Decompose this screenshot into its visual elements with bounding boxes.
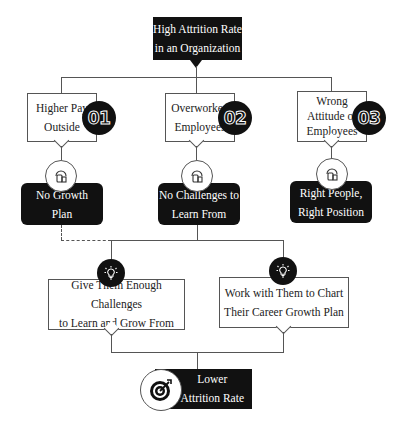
number-badge-02: 02 bbox=[218, 101, 252, 135]
person-device-icon bbox=[52, 167, 70, 185]
connector bbox=[111, 240, 283, 241]
root-node: High Attrition Rate in an Organization bbox=[153, 17, 242, 60]
connector bbox=[196, 66, 197, 77]
connector bbox=[61, 77, 62, 93]
solution-label: Work with Them to Chart Their Career Gro… bbox=[224, 284, 344, 322]
solution-node-1: Give Them Enough Challenges to Learn and… bbox=[48, 279, 185, 330]
effect-icon-circle bbox=[45, 160, 77, 192]
dashed-connector bbox=[61, 240, 111, 241]
connector bbox=[283, 332, 284, 352]
outcome-icon-circle bbox=[140, 369, 182, 411]
cause-label: Higher Pay Outside bbox=[36, 99, 88, 137]
solution-icon-circle bbox=[269, 257, 297, 285]
dashed-connector bbox=[61, 225, 62, 240]
connector bbox=[61, 146, 62, 160]
effect-icon-circle bbox=[316, 158, 348, 190]
lightbulb-icon bbox=[103, 265, 119, 281]
lightbulb-icon bbox=[275, 263, 291, 279]
person-device-icon bbox=[323, 165, 341, 183]
root-label: High Attrition Rate in an Organization bbox=[153, 20, 242, 58]
effect-icon-circle bbox=[181, 160, 213, 192]
connector bbox=[196, 77, 197, 93]
connector bbox=[196, 146, 197, 160]
connector bbox=[111, 334, 112, 352]
number-badge-01: 01 bbox=[82, 101, 116, 135]
target-icon bbox=[148, 377, 174, 403]
number-badge-03: 03 bbox=[352, 101, 386, 135]
connector bbox=[197, 225, 198, 240]
person-device-icon bbox=[188, 167, 206, 185]
solution-icon-circle bbox=[97, 259, 125, 287]
connector bbox=[197, 352, 198, 369]
outcome-label: Lower Attrition Rate bbox=[180, 370, 244, 408]
